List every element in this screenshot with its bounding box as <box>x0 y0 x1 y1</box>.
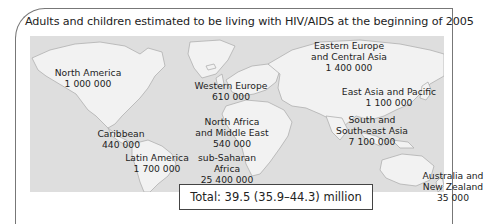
region-name: North America <box>55 67 122 78</box>
region-name: Latin America <box>125 152 189 163</box>
region-name: East Asia and Pacific <box>342 86 436 97</box>
region-value: 440 000 <box>97 139 144 150</box>
frame-top-border <box>44 8 453 9</box>
region-name: Western Europe <box>195 80 268 91</box>
region-label: East Asia and Pacific1 100 000 <box>342 86 436 108</box>
map-title: Adults and children estimated to be livi… <box>25 15 474 28</box>
region-name: sub-Saharan <box>198 152 256 163</box>
region-name: North Africa <box>195 116 268 127</box>
region-value: 1 000 000 <box>55 78 122 89</box>
region-value: 35 000 <box>423 192 484 203</box>
region-name: Eastern Europe <box>311 40 387 51</box>
region-value: 1 100 000 <box>342 97 436 108</box>
region-value: 1 700 000 <box>125 163 189 174</box>
region-name: Africa <box>198 163 256 174</box>
region-name: South and <box>336 114 408 125</box>
region-name: New Zealand <box>423 181 484 192</box>
region-name: Australia and <box>423 170 484 181</box>
region-label: Australia andNew Zealand35 000 <box>423 170 484 203</box>
region-name: and Central Asia <box>311 51 387 62</box>
region-value: 1 400 000 <box>311 62 387 73</box>
region-value: 540 000 <box>195 138 268 149</box>
region-label: South andSouth-east Asia7 100 000 <box>336 114 408 147</box>
total-label: Total: 39.5 (35.9–44.3) million <box>190 190 362 204</box>
region-name: Caribbean <box>97 128 144 139</box>
region-value: 610 000 <box>195 91 268 102</box>
region-label: Latin America1 700 000 <box>125 152 189 174</box>
region-label: Eastern Europeand Central Asia1 400 000 <box>311 40 387 73</box>
region-value: 7 100 000 <box>336 136 408 147</box>
region-name: South-east Asia <box>336 125 408 136</box>
region-name: and Middle East <box>195 127 268 138</box>
region-label: Caribbean440 000 <box>97 128 144 150</box>
total-box: Total: 39.5 (35.9–44.3) million <box>179 184 373 210</box>
region-label: Western Europe610 000 <box>195 80 268 102</box>
region-label: North America1 000 000 <box>55 67 122 89</box>
region-label: sub-SaharanAfrica25 400 000 <box>198 152 256 185</box>
region-label: North Africaand Middle East540 000 <box>195 116 268 149</box>
